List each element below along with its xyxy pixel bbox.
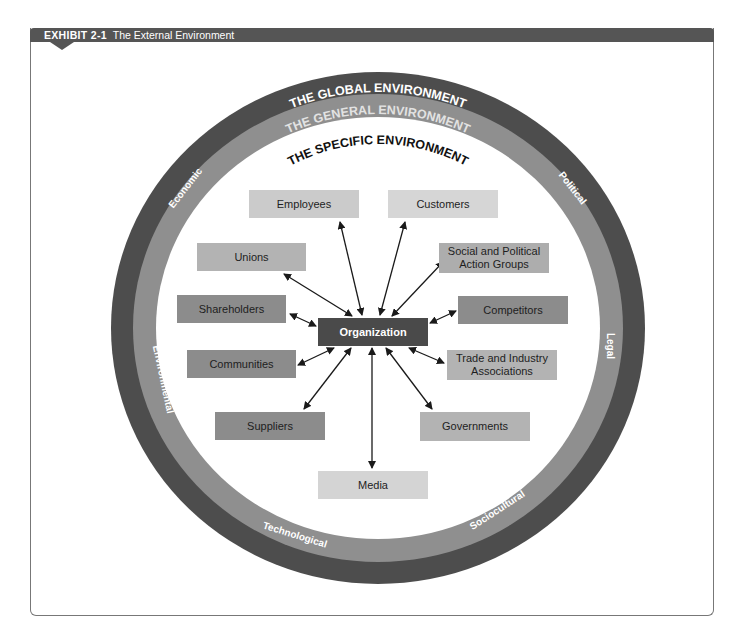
stakeholder-unions: Unions bbox=[197, 243, 306, 271]
stakeholder-label: Communities bbox=[209, 358, 273, 371]
stakeholder-suppliers: Suppliers bbox=[215, 412, 325, 440]
stakeholder-shareholders: Shareholders bbox=[177, 295, 286, 323]
segment-legal: Legal bbox=[605, 333, 616, 359]
organization-box: Organization bbox=[318, 318, 428, 346]
stakeholder-media: Media bbox=[318, 471, 428, 499]
stakeholder-label: Unions bbox=[234, 251, 268, 264]
stakeholder-competitors: Competitors bbox=[458, 296, 568, 324]
stakeholder-label: Trade and Industry Associations bbox=[453, 352, 551, 378]
stakeholder-label: Suppliers bbox=[247, 420, 293, 433]
stakeholder-label: Customers bbox=[416, 198, 469, 211]
stakeholder-governments: Governments bbox=[420, 412, 530, 441]
stakeholder-customers: Customers bbox=[388, 190, 498, 218]
stakeholder-trade-industry: Trade and Industry Associations bbox=[447, 350, 557, 380]
stakeholder-social-political: Social and Political Action Groups bbox=[439, 243, 549, 273]
organization-label: Organization bbox=[339, 326, 406, 339]
stakeholder-label: Employees bbox=[277, 198, 331, 211]
stakeholder-label: Governments bbox=[442, 420, 508, 433]
stakeholder-label: Social and Political Action Groups bbox=[445, 245, 543, 271]
stakeholder-label: Competitors bbox=[483, 304, 542, 317]
stakeholder-employees: Employees bbox=[249, 190, 359, 218]
stakeholder-label: Media bbox=[358, 479, 388, 492]
stakeholder-communities: Communities bbox=[187, 350, 296, 378]
stakeholder-label: Shareholders bbox=[199, 303, 264, 316]
